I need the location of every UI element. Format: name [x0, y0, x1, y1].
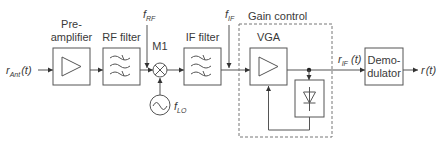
svg-text:fIF: fIF	[225, 8, 235, 22]
detector-block	[295, 80, 324, 117]
demodulator-label-line2: dulator	[367, 67, 401, 79]
if-filter-block: IF filter	[184, 31, 221, 85]
demodulator-label-line1: Demo-	[367, 54, 400, 66]
vga-block: VGA	[250, 31, 287, 85]
svg-text:fRF: fRF	[143, 8, 156, 22]
vga-label: VGA	[257, 31, 281, 43]
f-if-label: fIF	[225, 8, 235, 22]
svg-text:r(t): r(t)	[421, 64, 436, 76]
svg-text:rAnt(t): rAnt(t)	[6, 64, 32, 78]
preamp-label-line2: amplifier	[51, 31, 93, 43]
gain-control-label: Gain control	[248, 10, 307, 22]
f-lo-label: fLO	[174, 100, 187, 114]
input-signal-label: rAnt(t)	[6, 64, 32, 78]
local-oscillator: fLO	[150, 95, 187, 115]
output-signal-label: r(t)	[421, 64, 436, 76]
demodulator-block: Demo- dulator	[365, 48, 403, 85]
preamp-block: Pre- amplifier	[51, 18, 93, 85]
r-if-label: rIF (t)	[338, 53, 362, 67]
mixer-label: M1	[152, 40, 167, 52]
mixer-block: M1	[152, 40, 167, 77]
receiver-block-diagram: rAnt(t) Pre- amplifier RF filter fRF M1	[0, 0, 444, 149]
preamp-label-line1: Pre-	[61, 18, 82, 30]
if-filter-label: IF filter	[186, 31, 220, 43]
f-rf-label: fRF	[143, 8, 156, 22]
rf-filter-block: RF filter	[102, 31, 141, 85]
rf-filter-label: RF filter	[102, 31, 141, 43]
svg-text:rIF (t): rIF (t)	[338, 53, 362, 67]
